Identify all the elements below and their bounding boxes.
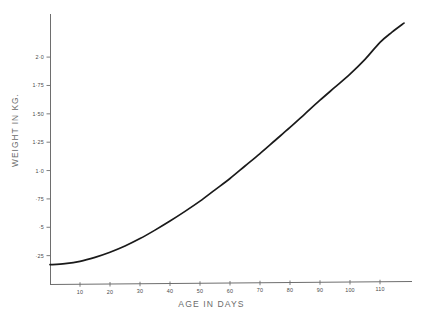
x-tick-label: 10	[77, 289, 83, 295]
y-axis-title: WEIGHT IN KG.	[10, 84, 20, 176]
x-tick-label: 80	[287, 287, 293, 293]
y-tick-label: 2·0	[14, 54, 44, 60]
x-axis-title: AGE IN DAYS	[0, 299, 423, 309]
x-tick-label: 40	[167, 288, 173, 294]
y-tick-label: ·25	[14, 253, 44, 259]
x-tick-label: 100	[345, 287, 355, 293]
x-tick-label: 50	[197, 288, 203, 294]
chart-figure: ·25·5·751·01·251·501·752·0 1020304050607…	[0, 0, 423, 323]
x-tick-label: 90	[317, 287, 323, 293]
x-tick-label: 110	[375, 286, 384, 292]
plot-canvas	[0, 0, 423, 323]
x-axis-line	[50, 282, 412, 285]
x-tick-label: 30	[137, 288, 143, 294]
x-axis-ticks	[80, 280, 380, 287]
axis-lines	[50, 14, 412, 285]
x-tick-label: 70	[257, 287, 263, 293]
y-tick-label: ·5	[14, 224, 44, 230]
x-tick-label: 20	[107, 289, 113, 295]
y-tick-label: ·75	[14, 196, 44, 202]
growth-curve-line	[50, 23, 404, 265]
x-tick-label: 60	[227, 288, 233, 294]
